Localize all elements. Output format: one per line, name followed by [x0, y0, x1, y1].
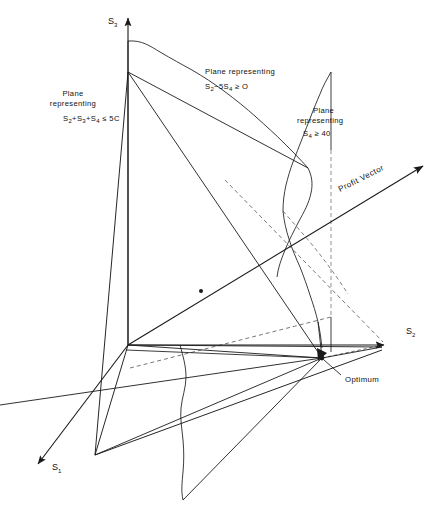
- floor-bottom-right-edge: [183, 358, 322, 500]
- plane-label-capacity-line1: Plane: [62, 89, 83, 98]
- profit-vector: [128, 166, 423, 345]
- plane-capacity-diagonal-to-optimum: [95, 358, 322, 455]
- s1-axis-label: S1: [52, 462, 62, 474]
- s3-axis-label: S3: [108, 16, 118, 28]
- plane-ratio-top-edge: [128, 41, 308, 168]
- plane-capacity-upper-edge: [95, 72, 128, 455]
- plane-ratio-sheet: [128, 41, 312, 277]
- floor-sheet: [0, 277, 322, 500]
- plane-ratio-lower-wave: [277, 168, 312, 277]
- s2-axis-label: S2: [406, 326, 416, 338]
- optimum-label: Optimum: [345, 375, 379, 384]
- s1-axis-line: [38, 345, 128, 464]
- back-wall-diagonal: [128, 72, 322, 358]
- profit-vector-arrow: [128, 166, 423, 345]
- plane-label-ratio-line1: Plane representing: [205, 67, 275, 76]
- optimum-marker-group: [317, 348, 341, 375]
- diagram-svg: S3 S2 S1 Plane representing S2+S3+S4 ≤ 5…: [0, 0, 436, 524]
- plane-minimum-top-edge: [283, 72, 331, 211]
- plane-label-capacity-line2: representing: [50, 99, 96, 108]
- plane-capacity-sheet: [95, 72, 382, 455]
- feasible-region-polytope: [126, 322, 382, 358]
- plane-label-minimum-formula: S4 ≥ 40: [303, 129, 331, 139]
- plane-label-capacity-formula: S2+S3+S4 ≤ 5C: [63, 114, 120, 124]
- axis-lines: [38, 18, 384, 464]
- plane-label-minimum-line2: representing: [297, 116, 343, 125]
- dashed-arc-upper-right: [283, 211, 348, 294]
- profit-vector-marker: [199, 289, 203, 293]
- figure-root: S3 S2 S1 Plane representing S2+S3+S4 ≤ 5…: [0, 0, 436, 524]
- dashed-diagonal-lower: [130, 317, 331, 368]
- optimum-leader-line: [324, 360, 341, 375]
- profit-vector-label: Profit Vector: [337, 163, 386, 194]
- dashed-construction-lines: [130, 180, 383, 368]
- floor-left-edge: [0, 358, 322, 405]
- plane-label-ratio-formula: S2−5S4 ≥ O: [205, 82, 248, 92]
- plane-label-minimum-line1: Plane: [313, 106, 334, 115]
